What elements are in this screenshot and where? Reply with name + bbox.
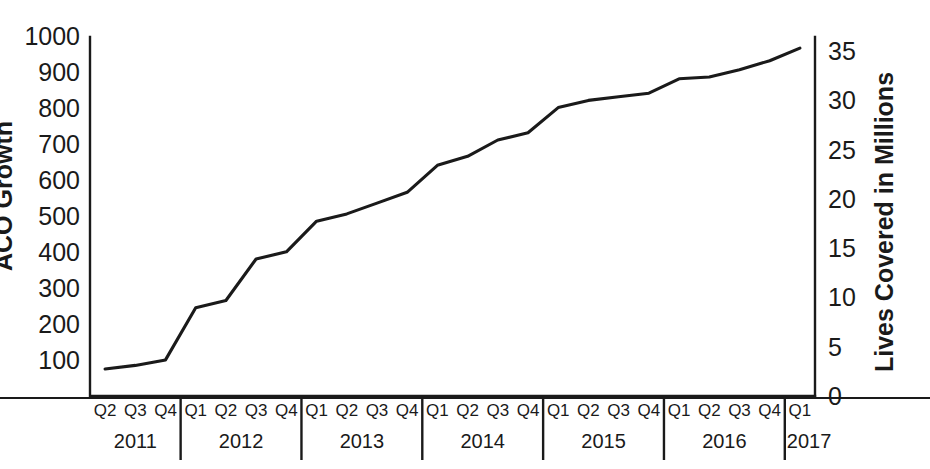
left-tick-label: 700: [38, 130, 80, 158]
right-axis-title: Lives Covered in Millions: [870, 72, 898, 372]
right-tick-label: 25: [828, 136, 856, 164]
left-axis-tick-labels: 1002003004005006007008009001000: [24, 22, 80, 374]
x-axis-quarter-label: Q1: [426, 401, 449, 420]
x-axis-year-label: 2011: [114, 430, 157, 452]
x-axis-group: Q2Q3Q42011Q1Q2Q3Q42012Q1Q2Q3Q42013Q1Q2Q3…: [0, 398, 930, 460]
x-axis-quarter-label: Q3: [245, 401, 268, 420]
x-axis-year-label: 2014: [460, 430, 505, 452]
series-line-aco-growth: [105, 48, 800, 369]
x-axis-quarter-label: Q1: [184, 401, 207, 420]
x-axis-quarter-label: Q3: [486, 401, 509, 420]
x-axis-quarter-label: Q2: [456, 401, 479, 420]
right-tick-label: 10: [828, 283, 856, 311]
left-tick-label: 600: [38, 166, 80, 194]
x-axis-quarter-label: Q1: [547, 401, 570, 420]
axes-group: [90, 37, 815, 396]
x-axis-quarter-label: Q3: [728, 401, 751, 420]
right-tick-label: 5: [828, 333, 842, 361]
left-tick-label: 100: [38, 346, 80, 374]
x-axis-quarter-label: Q2: [335, 401, 358, 420]
x-axis-quarter-label: Q1: [668, 401, 691, 420]
right-tick-label: 0: [828, 382, 842, 410]
left-tick-label: 200: [38, 310, 80, 338]
x-axis-quarter-label: Q3: [366, 401, 389, 420]
line-chart: 1002003004005006007008009001000 05101520…: [0, 0, 930, 469]
x-axis-year-label: 2016: [702, 430, 747, 452]
left-axis-title: ACO Growth: [0, 121, 17, 271]
left-tick-label: 1000: [24, 22, 80, 50]
left-tick-label: 400: [38, 238, 80, 266]
right-axis-tick-labels: 05101520253035: [828, 37, 856, 410]
right-tick-label: 30: [828, 86, 856, 114]
left-tick-label: 900: [38, 58, 80, 86]
x-axis-quarter-label: Q3: [607, 401, 630, 420]
chart-canvas: 1002003004005006007008009001000 05101520…: [0, 0, 930, 469]
x-axis-quarter-label: Q4: [638, 401, 661, 420]
x-axis-year-label: 2017: [787, 430, 832, 452]
right-tick-label: 20: [828, 185, 856, 213]
x-axis-quarter-label: Q2: [215, 401, 238, 420]
left-tick-label: 300: [38, 274, 80, 302]
x-axis-quarter-label: Q1: [789, 401, 812, 420]
x-axis-quarter-label: Q4: [517, 401, 540, 420]
left-tick-label: 500: [38, 202, 80, 230]
right-tick-label: 35: [828, 37, 856, 65]
x-axis-quarter-label: Q4: [396, 401, 419, 420]
x-axis-year-label: 2015: [581, 430, 626, 452]
x-axis-quarter-label: Q2: [698, 401, 721, 420]
left-and-bottom-axis: [90, 37, 815, 396]
x-axis-quarter-label: Q1: [305, 401, 328, 420]
x-axis-quarter-label: Q3: [124, 401, 147, 420]
x-axis-year-label: 2013: [340, 430, 385, 452]
left-tick-label: 800: [38, 94, 80, 122]
right-tick-label: 15: [828, 234, 856, 262]
x-axis-quarter-label: Q4: [154, 401, 177, 420]
x-axis-quarter-label: Q4: [758, 401, 781, 420]
x-axis-year-label: 2012: [219, 430, 264, 452]
x-axis-quarter-label: Q2: [577, 401, 600, 420]
x-axis-quarter-label: Q4: [275, 401, 298, 420]
x-axis-quarter-label: Q2: [94, 401, 117, 420]
